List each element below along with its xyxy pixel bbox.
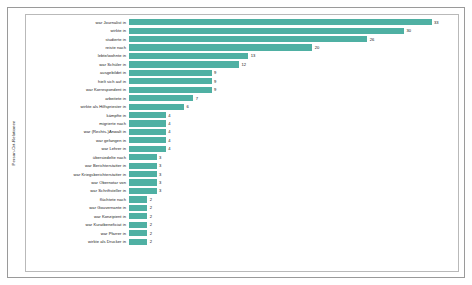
bar-row: war Korrespondent in9: [26, 86, 458, 94]
bar: [129, 87, 212, 93]
bar-row: war Obernotar von3: [26, 178, 458, 186]
bar: [129, 154, 157, 160]
bar-row: war Pfarrer in2: [26, 229, 458, 237]
bar-category-label: war Pfarrer in: [26, 231, 129, 236]
bar-track: 4: [129, 111, 458, 119]
bar-value-label: 9: [212, 87, 217, 92]
bar-track: 3: [129, 153, 458, 161]
bar-track: 12: [129, 60, 458, 68]
y-axis-title: Person-Ort-Relationen: [11, 120, 16, 165]
bar: [129, 61, 239, 67]
bar-row: war Schriftsteller in3: [26, 187, 458, 195]
bar-value-label: 33: [432, 20, 439, 25]
bar-row: war Kriegsberichterstatter in3: [26, 170, 458, 178]
bar-track: 2: [129, 237, 458, 245]
bar-value-label: 7: [193, 96, 198, 101]
bar: [129, 28, 404, 34]
bar-row: lebte/wohnte in13: [26, 52, 458, 60]
bar-value-label: 30: [404, 28, 411, 33]
bar-row: war Journalist in33: [26, 18, 458, 26]
bar-category-label: studierte in: [26, 37, 129, 42]
bar-value-label: 2: [147, 214, 152, 219]
bar-track: 26: [129, 35, 458, 43]
bar-rows: war Journalist in33wirkte in30studierte …: [26, 18, 458, 246]
bar-value-label: 2: [147, 205, 152, 210]
bar-category-label: wirkte in: [26, 28, 129, 33]
bar: [129, 120, 166, 126]
bar-track: 3: [129, 187, 458, 195]
bar-row: war Gouvernante in2: [26, 204, 458, 212]
bar-value-label: 13: [248, 53, 255, 58]
bar-track: 2: [129, 212, 458, 220]
bar-value-label: 3: [157, 180, 162, 185]
bar-track: 9: [129, 77, 458, 85]
bar-track: 3: [129, 161, 458, 169]
bar-track: 3: [129, 178, 458, 186]
bar-track: 2: [129, 204, 458, 212]
bar-category-label: flüchtete nach: [26, 197, 129, 202]
bar-value-label: 4: [166, 121, 171, 126]
bar-category-label: war Gouvernante in: [26, 205, 129, 210]
bar-row: ausgebildet in9: [26, 69, 458, 77]
bar-track: 9: [129, 69, 458, 77]
bar: [129, 188, 157, 194]
bar-category-label: lebte/wohnte in: [26, 53, 129, 58]
bar-category-label: war Lehrer in: [26, 146, 129, 151]
bar: [129, 146, 166, 152]
bar-category-label: war Kuratbeneficiat in: [26, 222, 129, 227]
bar-category-label: war Obernotar von: [26, 180, 129, 185]
bar: [129, 163, 157, 169]
bar-category-label: war Schüler in: [26, 62, 129, 67]
bar-row: war gefangen in4: [26, 136, 458, 144]
bar: [129, 36, 367, 42]
bar: [129, 95, 193, 101]
bar-track: 2: [129, 195, 458, 203]
bar-category-label: migrierte nach: [26, 121, 129, 126]
bar-value-label: 3: [157, 163, 162, 168]
bar-row: wirkte als Hilfspriester in6: [26, 102, 458, 110]
bar-category-label: war Journalist in: [26, 20, 129, 25]
bar-value-label: 2: [147, 231, 152, 236]
bar-value-label: 2: [147, 197, 152, 202]
bar-value-label: 20: [312, 45, 319, 50]
bar-value-label: 6: [184, 104, 189, 109]
bar-value-label: 2: [147, 239, 152, 244]
bar: [129, 44, 312, 50]
bar-track: 30: [129, 26, 458, 34]
bar-category-label: war Kriegsberichterstatter in: [26, 172, 129, 177]
bar-category-label: übersiedelte nach: [26, 155, 129, 160]
bar-value-label: 12: [239, 62, 246, 67]
bar: [129, 222, 147, 228]
bar-track: 2: [129, 221, 458, 229]
bar: [129, 179, 157, 185]
bar: [129, 239, 147, 245]
bar-category-label: kämpfte in: [26, 113, 129, 118]
bar-row: flüchtete nach2: [26, 195, 458, 203]
bar-value-label: 3: [157, 188, 162, 193]
bar-category-label: war Berichterstatter in: [26, 163, 129, 168]
bar-track: 2: [129, 229, 458, 237]
bar: [129, 230, 147, 236]
bar-row: war Konzipient in2: [26, 212, 458, 220]
bar-row: migrierte nach4: [26, 119, 458, 127]
bar: [129, 171, 157, 177]
bar: [129, 70, 212, 76]
bar-row: war (Rechts-)Anwalt in4: [26, 128, 458, 136]
bar-track: 4: [129, 119, 458, 127]
bar-category-label: war Konzipient in: [26, 214, 129, 219]
bar-category-label: ausgebildet in: [26, 70, 129, 75]
bar-track: 3: [129, 170, 458, 178]
bar: [129, 78, 212, 84]
bar-value-label: 2: [147, 222, 152, 227]
bar-row: hielt sich auf in9: [26, 77, 458, 85]
bar-value-label: 4: [166, 129, 171, 134]
bar: [129, 112, 166, 118]
bar-category-label: reiste nach: [26, 45, 129, 50]
bar-track: 4: [129, 128, 458, 136]
bar-value-label: 9: [212, 70, 217, 75]
bar-row: war Schüler in12: [26, 60, 458, 68]
bar-row: war Lehrer in4: [26, 145, 458, 153]
bar: [129, 137, 166, 143]
bar-track: 9: [129, 86, 458, 94]
bar-track: 4: [129, 145, 458, 153]
